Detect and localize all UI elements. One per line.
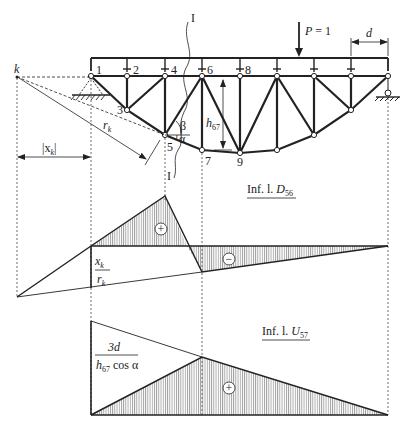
section-label-top: I — [191, 11, 195, 25]
truss-members — [91, 76, 388, 153]
svg-text:rk: rk — [97, 272, 106, 288]
svg-text:Inf. l. U57: Inf. l. U57 — [262, 324, 308, 340]
floor-beams — [123, 58, 355, 72]
svg-text:h67 cos α: h67 cos α — [96, 358, 139, 374]
svg-text:9: 9 — [237, 155, 243, 169]
influence-line-D56: + − — [17, 196, 388, 297]
D56-ordinate-label: xk rk — [94, 254, 110, 288]
section-label-bottom: I — [167, 169, 171, 183]
positive-sign: + — [158, 222, 165, 236]
U57-title: Inf. l. U57 — [262, 324, 310, 340]
svg-text:8: 8 — [245, 63, 251, 77]
roller-support-right — [375, 78, 400, 101]
negative-sign: − — [226, 252, 233, 266]
load-label: P = 1 — [304, 24, 331, 38]
h67-label: h67 — [206, 116, 220, 132]
svg-text:1: 1 — [96, 63, 102, 77]
beta-label: β — [180, 119, 186, 133]
svg-text:4: 4 — [171, 63, 177, 77]
svg-text:3: 3 — [117, 103, 123, 117]
svg-text:5: 5 — [167, 140, 173, 154]
svg-text:2: 2 — [133, 63, 139, 77]
D56-title: Inf. l. D56 — [247, 182, 296, 198]
svg-text:3d: 3d — [107, 340, 121, 354]
svg-text:Inf. l. D56: Inf. l. D56 — [247, 182, 293, 198]
svg-text:7: 7 — [205, 154, 211, 168]
positive-sign: + — [226, 381, 233, 395]
truss-diagram: P = 1 d I I k rk |xk| β α h67 1 2 3 4 — [0, 0, 416, 435]
alpha-label: α — [179, 132, 186, 146]
panel-label: d — [366, 26, 373, 40]
load-arrow — [295, 22, 303, 57]
xk-label: |xk| — [42, 141, 56, 157]
pole-label: k — [14, 62, 20, 76]
panel-dimension — [351, 38, 388, 56]
radius-label: rk — [103, 118, 112, 134]
svg-text:6: 6 — [207, 63, 213, 77]
section-line — [174, 22, 190, 178]
svg-text:xk: xk — [94, 254, 104, 270]
U57-ordinate-label: 3d h67 cos α — [95, 340, 139, 374]
